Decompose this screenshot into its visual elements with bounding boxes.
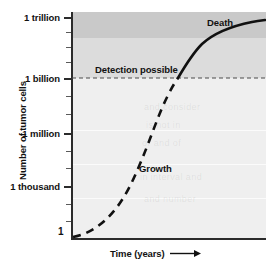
- annotation-growth: Growth: [139, 163, 172, 174]
- tumor-growth-figure: and consider is not in or and of in inte…: [0, 0, 266, 271]
- death-curve-solid: [178, 20, 265, 78]
- growth-curve-dashed: [73, 78, 178, 237]
- annotation-detection-possible: Detection possible: [95, 64, 178, 75]
- x-axis-title: Time (years): [110, 248, 165, 259]
- annotation-death: Death: [207, 17, 233, 28]
- y-axis-title: Number of tumor cells: [17, 56, 28, 206]
- x-axis-title-group: Time (years): [110, 248, 202, 259]
- right-arrow-icon: [170, 249, 202, 258]
- curve-layer: [0, 0, 266, 271]
